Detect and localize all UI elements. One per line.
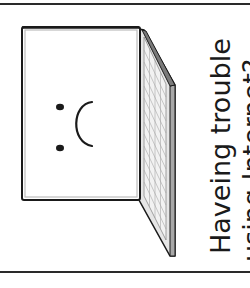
caption: Haveing trouble using Internet? <box>0 0 250 288</box>
caption-line-2: using Internet? <box>238 59 250 262</box>
caption-line-1: Haveing trouble <box>206 38 236 254</box>
